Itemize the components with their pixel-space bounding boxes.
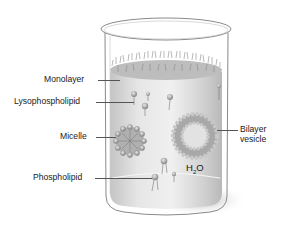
leader-micelle: [96, 137, 116, 138]
leader-monolayer: [98, 80, 120, 81]
label-micelle: Micelle: [60, 131, 87, 141]
beaker-diagram: [0, 0, 283, 226]
bilayer-vesicle-icon: [173, 114, 217, 158]
leader-phospholipid: [95, 178, 152, 179]
label-bilayer-vesicle-line1: Bilayer: [240, 124, 266, 134]
label-phospholipid: Phospholipid: [33, 172, 82, 182]
water-label: H2O: [186, 162, 204, 175]
label-lysophospholipid: Lysophospholipid: [14, 96, 80, 106]
label-monolayer: Monolayer: [44, 74, 84, 84]
leader-bilayer-vesicle: [217, 130, 238, 131]
leader-lysophospholipid: [96, 102, 134, 103]
label-bilayer-vesicle-line2: vesicle: [240, 134, 266, 144]
